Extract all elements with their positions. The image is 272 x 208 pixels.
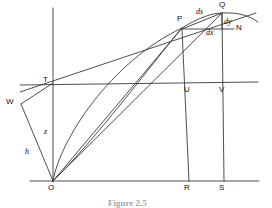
figure-caption: Figure 2.5 [108, 198, 147, 208]
measure-label-dx: dx [206, 29, 214, 37]
point-label-P: P [177, 15, 182, 23]
measure-label-dy: dy [224, 18, 232, 26]
point-label-U: U [184, 86, 190, 94]
line-q-v-s [222, 14, 224, 181]
point-label-Q: Q [219, 1, 225, 9]
point-label-T: T [43, 76, 48, 84]
ray-o-to-q [53, 13, 222, 181]
point-label-W: W [6, 98, 14, 106]
point-label-R: R [184, 184, 190, 192]
measure-label-z: z [44, 128, 47, 136]
line-w-to-o [21, 104, 53, 181]
measure-label-h: h [25, 148, 29, 156]
measure-label-ds: ds [196, 8, 203, 16]
ray-o-to-p [53, 28, 182, 181]
point-label-V: V [219, 86, 224, 94]
diagram-canvas [0, 0, 272, 208]
trajectory-curve [53, 13, 258, 181]
point-label-S: S [219, 184, 224, 192]
point-label-O: O [48, 184, 54, 192]
point-label-N: N [236, 24, 242, 32]
figure-geometry-diagram: O T W P Q N U V R S ds dy dx z h Figure … [0, 0, 272, 208]
